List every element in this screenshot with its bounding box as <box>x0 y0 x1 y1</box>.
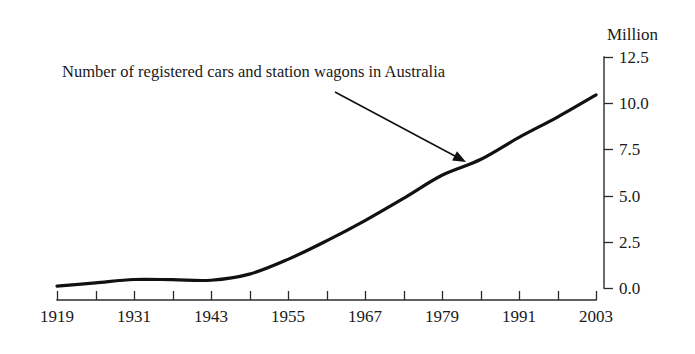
annotation-arrow-line <box>335 92 456 157</box>
chart-page: 19191931194319551967197919912003 0.02.55… <box>0 0 695 354</box>
y-axis-unit-label: Million <box>607 25 659 44</box>
x-axis-ticks <box>58 291 597 300</box>
x-axis-tick-label: 2003 <box>579 307 613 326</box>
y-axis-tick-label: 5.0 <box>619 187 640 206</box>
y-axis-tick-label: 10.0 <box>619 94 649 113</box>
x-axis-tick-label: 1979 <box>425 307 459 326</box>
chart-annotation-text: Number of registered cars and station wa… <box>62 62 446 81</box>
x-axis-tick-label: 1991 <box>502 307 536 326</box>
y-axis-ticks <box>604 58 613 289</box>
y-axis-tick-label: 0.0 <box>619 279 640 298</box>
y-axis-tick-labels: 0.02.55.07.510.012.5 <box>619 48 649 298</box>
x-axis-tick-labels: 19191931194319551967197919912003 <box>40 307 613 326</box>
x-axis-tick-label: 1955 <box>271 307 305 326</box>
x-axis-tick-label: 1943 <box>194 307 228 326</box>
data-series-line <box>57 95 596 286</box>
y-axis-tick-label: 2.5 <box>619 233 640 252</box>
annotation-arrow-head <box>452 151 466 162</box>
y-axis-tick-label: 7.5 <box>619 140 640 159</box>
y-axis-tick-label: 12.5 <box>619 48 649 67</box>
line-chart: 19191931194319551967197919912003 0.02.55… <box>0 0 695 354</box>
x-axis-tick-label: 1919 <box>40 307 74 326</box>
x-axis-tick-label: 1931 <box>117 307 151 326</box>
x-axis-tick-label: 1967 <box>348 307 383 326</box>
